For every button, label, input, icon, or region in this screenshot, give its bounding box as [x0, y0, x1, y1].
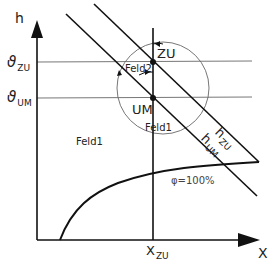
- x-zu-label: XZU: [146, 244, 169, 257]
- feld1-left-label: Feld1: [76, 137, 103, 147]
- x-axis-arrow-icon: [238, 233, 260, 247]
- y-axis-label: h: [15, 11, 24, 25]
- theta-um-label: ϑUM: [7, 90, 32, 105]
- theta-um-sub: UM: [17, 98, 31, 108]
- y-axis-arrow-icon: [31, 20, 43, 38]
- point-um: [150, 95, 156, 101]
- h-um-line: [66, 14, 257, 196]
- feld2-label: Feld2: [125, 64, 152, 74]
- theta-zu-symbol: ϑ: [7, 53, 16, 71]
- x-zu-sub: ZU: [156, 251, 169, 261]
- isotherm-zu-line: [37, 61, 252, 62]
- isotherm-um-line: [37, 97, 252, 98]
- feld1-circle-label: Feld1: [145, 123, 172, 133]
- theta-zu-sub: ZU: [17, 63, 30, 73]
- theta-zu-label: ϑZU: [7, 55, 30, 70]
- saturation-curve: [60, 162, 259, 240]
- arc-arrowhead-left-icon: [117, 70, 122, 76]
- theta-um-symbol: ϑ: [7, 88, 16, 106]
- saturation-curve-label: φ=100%: [171, 176, 215, 186]
- x-axis-label: X: [258, 246, 268, 260]
- point-zu-label: ZU: [157, 47, 175, 60]
- x-zu-main: X: [146, 243, 155, 258]
- point-um-label: UM: [132, 103, 153, 116]
